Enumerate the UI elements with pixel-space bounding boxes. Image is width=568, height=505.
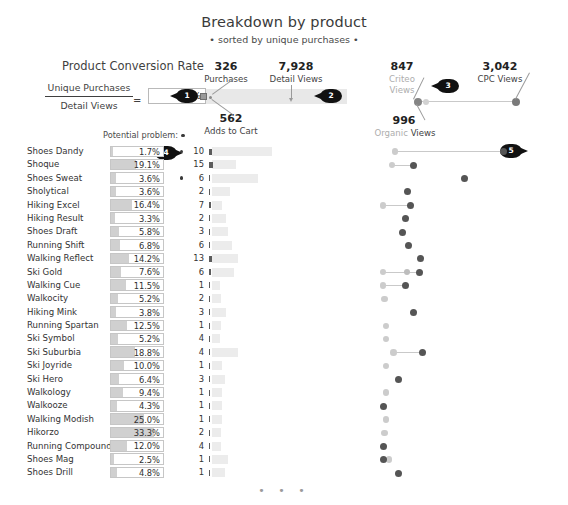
channel-range-line	[383, 205, 410, 206]
callout-badge-1[interactable]: 1	[176, 89, 198, 103]
table-row[interactable]: Shoes Drill4.8%1	[0, 466, 568, 479]
table-row[interactable]: Walking Modish25.0%1	[0, 413, 568, 426]
conversion-rate-text: 19.1%	[134, 160, 160, 170]
conversion-rate-bar	[111, 374, 119, 384]
unique-purchases-count: 6	[188, 240, 204, 250]
potential-problem-dot	[180, 176, 183, 179]
conversion-rate-text: 4.3%	[139, 401, 160, 411]
page-title: Breakdown by product	[0, 14, 568, 30]
table-row[interactable]: Ski Hero6.4%3	[0, 373, 568, 386]
table-row[interactable]: Ski Gold7.6%6	[0, 266, 568, 279]
conversion-rate-cell: 16.4%	[110, 199, 164, 211]
conversion-rate-cell: 12.5%	[110, 320, 164, 332]
conversion-rate-bar	[111, 307, 116, 317]
conversion-rate-bar	[111, 280, 126, 290]
adds-to-cart-mark	[209, 336, 210, 342]
channel-range-line	[383, 272, 419, 273]
product-name: Shoes Dandy	[27, 146, 84, 156]
adds-to-cart-mark	[209, 470, 210, 476]
detail-views-bar	[212, 388, 222, 397]
table-row[interactable]: Walking Cue11.5%1	[0, 279, 568, 292]
unique-purchases-count: 4	[188, 441, 204, 451]
organic-views-dot	[381, 296, 388, 303]
detail-views-bar	[212, 375, 225, 384]
detail-views-bar	[212, 468, 225, 477]
table-row[interactable]: Running Compound12.0%4	[0, 440, 568, 453]
conversion-rate-cell: 3.8%	[110, 306, 164, 318]
callout-badge-2[interactable]: 2	[320, 89, 342, 103]
adds-to-cart-mark	[209, 269, 211, 275]
table-row[interactable]: Running Spartan12.5%1	[0, 319, 568, 332]
adds-to-cart-mark	[209, 416, 210, 422]
table-row[interactable]: Ski Symbol5.2%4	[0, 332, 568, 345]
organic-views-dot	[380, 282, 387, 289]
unique-purchases-count: 3	[188, 226, 204, 236]
cpc-views-dot	[461, 175, 468, 182]
unique-purchases-count: 2	[188, 427, 204, 437]
criteo-views-value: 847	[382, 60, 422, 73]
conversion-rate-formula: Unique Purchases Detail Views	[30, 82, 148, 112]
adds-to-cart-mark	[209, 242, 210, 248]
adds-to-cart-mark	[209, 296, 210, 302]
conversion-rate-text: 3.6%	[139, 174, 160, 184]
product-name: Hikorzo	[27, 427, 59, 437]
conversion-rate-text: 16.4%	[134, 200, 160, 210]
adds-to-cart-mark	[209, 349, 210, 355]
unique-purchases-count: 3	[188, 307, 204, 317]
table-row[interactable]: Ski Suburbia18.8%4	[0, 346, 568, 359]
callout-badge-3[interactable]: 3	[437, 79, 459, 93]
unique-purchases-count: 4	[188, 347, 204, 357]
unique-purchases-count: 6	[188, 267, 204, 277]
conversion-rate-cell: 33.3%	[110, 427, 164, 439]
product-name: Hiking Excel	[27, 200, 80, 210]
purchases-value: 326	[195, 60, 257, 73]
conversion-rate-text: 5.8%	[139, 227, 160, 237]
conversion-rate-cell: 19.1%	[110, 159, 164, 171]
table-row[interactable]: Hiking Result3.3%2	[0, 212, 568, 225]
table-row[interactable]: Hikorzo33.3%2	[0, 426, 568, 439]
conversion-rate-text: 9.4%	[139, 388, 160, 398]
table-row[interactable]: Shoque19.1%15	[0, 158, 568, 171]
organic-views-value: 996	[384, 114, 424, 127]
cpc-views-dot	[380, 403, 387, 410]
table-row[interactable]: Ski Joyride10.0%1	[0, 359, 568, 372]
unique-purchases-count: 1	[188, 320, 204, 330]
detail-views-bar	[212, 321, 221, 330]
adds-to-cart-mark	[209, 363, 210, 369]
conversion-rate-text: 4.8%	[139, 468, 160, 478]
detail-views-bar	[212, 214, 226, 223]
detail-views-bar	[212, 187, 230, 196]
equals-sign: =	[133, 95, 141, 106]
table-row[interactable]: Shoes Mag2.5%1	[0, 453, 568, 466]
cpc-views-dot	[500, 148, 507, 155]
table-row[interactable]: Walkooze4.3%1	[0, 399, 568, 412]
product-name: Walking Reflect	[27, 253, 93, 263]
criteo-views-label-line1: Criteo	[382, 74, 422, 84]
product-name: Running Shift	[27, 240, 84, 250]
table-row[interactable]: Running Shift6.8%6	[0, 239, 568, 252]
table-row[interactable]: Sholytical3.6%2	[0, 185, 568, 198]
cpc-views-dot	[380, 456, 387, 463]
table-row[interactable]: Hiking Mink3.8%3	[0, 306, 568, 319]
product-name: Shoes Sweat	[27, 173, 82, 183]
table-row[interactable]: Hiking Excel16.4%7	[0, 199, 568, 212]
conversion-rate-text: 11.5%	[134, 281, 160, 291]
table-row[interactable]: Walkocity5.2%2	[0, 292, 568, 305]
conversion-rate-bar	[111, 454, 114, 464]
table-row[interactable]: Shoes Dandy1.7%10	[0, 145, 568, 158]
table-row[interactable]: Shoes Draft5.8%3	[0, 225, 568, 238]
conversion-rate-bar	[111, 227, 119, 237]
organic-views-dot	[383, 416, 390, 423]
adds-to-cart-mark	[209, 215, 210, 221]
purchases-marker	[200, 93, 207, 100]
unique-purchases-count: 2	[188, 186, 204, 196]
product-name: Shoes Draft	[27, 226, 77, 236]
unique-purchases-count: 15	[188, 159, 204, 169]
conversion-rate-cell: 7.6%	[110, 266, 164, 278]
table-row[interactable]: Walking Reflect14.2%13	[0, 252, 568, 265]
conversion-rate-cell: 10.0%	[110, 360, 164, 372]
conversion-rate-cell: 3.6%	[110, 186, 164, 198]
table-row[interactable]: Shoes Sweat3.6%6	[0, 172, 568, 185]
adds-to-cart-mark	[209, 456, 210, 462]
table-row[interactable]: Walkology9.4%1	[0, 386, 568, 399]
